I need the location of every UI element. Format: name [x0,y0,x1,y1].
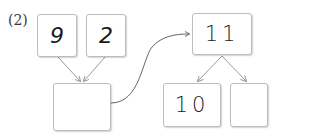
arrow-to-10 [198,56,222,81]
arrow-from-2 [84,57,105,81]
answer-box-remainder[interactable] [230,83,268,127]
answer-box-sum[interactable] [53,83,111,131]
box-value: 10 [175,93,210,117]
number-box-11: 11 [192,13,252,55]
box-value: 2 [99,23,113,48]
box-value: 9 [50,23,64,48]
number-box-10: 10 [163,83,221,127]
number-box-9: 9 [37,14,77,57]
arrow-to-empty [222,56,246,81]
arrow-from-9 [58,57,80,81]
number-box-2: 2 [86,14,126,57]
box-value: 11 [205,22,240,46]
